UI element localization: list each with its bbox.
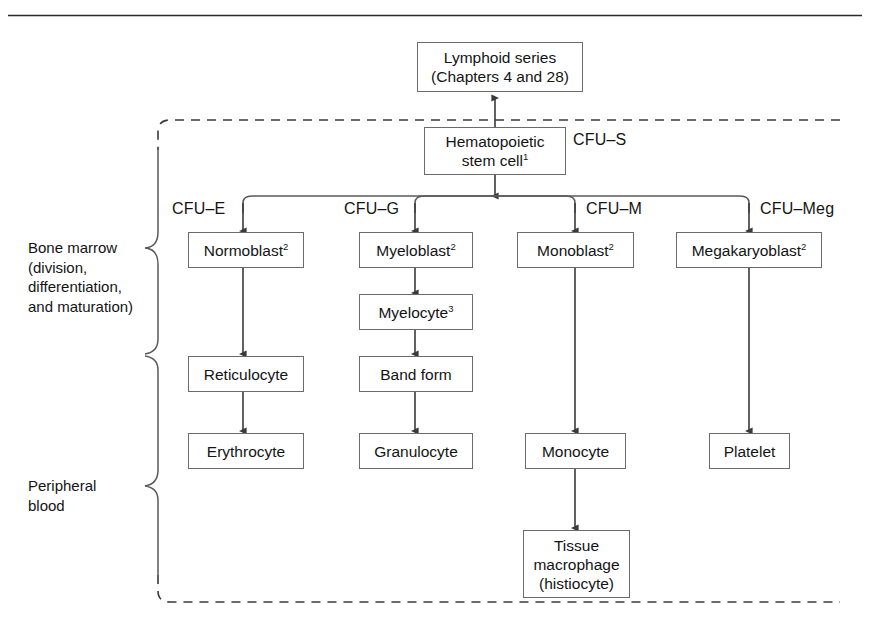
brace-bone-marrow	[145, 150, 158, 354]
label-cfu-s: CFU–S	[573, 131, 626, 149]
label-cfu-g: CFU–G	[344, 200, 399, 218]
node-monoblast[interactable]: Monoblast2	[517, 232, 634, 268]
brace-peripheral-blood	[145, 356, 158, 575]
node-erythrocyte[interactable]: Erythrocyte	[188, 433, 304, 469]
footnote-marker-3: 3	[448, 302, 453, 313]
node-tissue-macrophage-line1: Tissue	[554, 536, 599, 555]
branch-bus-cfu-g	[415, 196, 495, 213]
node-myeloblast[interactable]: Myeloblast2	[359, 232, 473, 268]
node-platelet[interactable]: Platelet	[709, 433, 790, 469]
node-granulocyte[interactable]: Granulocyte	[359, 433, 473, 469]
node-normoblast[interactable]: Normoblast2	[188, 232, 304, 268]
node-tissue-macrophage[interactable]: Tissue macrophage (histiocyte)	[523, 530, 630, 598]
node-myelocyte-label: Myelocyte3	[378, 303, 453, 322]
node-lymphoid-series-line1: Lymphoid series	[444, 48, 556, 67]
node-granulocyte-label: Granulocyte	[374, 442, 458, 461]
label-cfu-meg: CFU–Meg	[760, 200, 834, 218]
node-reticulocyte[interactable]: Reticulocyte	[188, 356, 304, 392]
node-myelocyte[interactable]: Myelocyte3	[359, 294, 473, 330]
node-platelet-label: Platelet	[724, 442, 776, 461]
node-lymphoid-series[interactable]: Lymphoid series (Chapters 4 and 28)	[417, 42, 583, 92]
footnote-marker-2: 2	[801, 240, 806, 251]
footnote-marker-2: 2	[283, 240, 288, 251]
label-cfu-e: CFU–E	[172, 200, 225, 218]
node-myeloblast-label: Myeloblast2	[376, 241, 455, 260]
dashed-line-bottom	[158, 575, 840, 602]
node-erythrocyte-label: Erythrocyte	[207, 442, 285, 461]
node-hematopoietic-stem-cell[interactable]: Hematopoietic stem cell1	[424, 127, 566, 175]
node-tissue-macrophage-line3: (histiocyte)	[539, 574, 614, 593]
node-band-form[interactable]: Band form	[359, 356, 473, 392]
branch-bus-cfu-m	[495, 196, 575, 213]
node-monoblast-label: Monoblast2	[537, 241, 614, 260]
node-hematopoietic-stem-cell-line2: stem cell1	[462, 151, 528, 170]
label-cfu-m: CFU–M	[586, 200, 642, 218]
node-band-form-label: Band form	[380, 365, 452, 384]
node-hematopoietic-stem-cell-line1: Hematopoietic	[445, 132, 544, 151]
node-normoblast-label: Normoblast2	[204, 241, 289, 260]
node-reticulocyte-label: Reticulocyte	[204, 365, 288, 384]
footnote-marker-2: 2	[450, 240, 455, 251]
node-lymphoid-series-line2: (Chapters 4 and 28)	[431, 67, 569, 86]
footnote-marker-2: 2	[609, 240, 614, 251]
footnote-marker-1: 1	[523, 151, 528, 162]
region-label-peripheral-blood: Peripheral blood	[28, 476, 140, 515]
node-megakaryoblast[interactable]: Megakaryoblast2	[676, 232, 822, 268]
region-label-bone-marrow: Bone marrow (division, differentiation, …	[28, 238, 140, 316]
node-megakaryoblast-label: Megakaryoblast2	[692, 241, 807, 260]
node-monocyte[interactable]: Monocyte	[525, 433, 626, 469]
figure-canvas: Lymphoid series (Chapters 4 and 28) Hema…	[0, 0, 870, 632]
node-tissue-macrophage-line2: macrophage	[533, 555, 619, 574]
node-monocyte-label: Monocyte	[542, 442, 609, 461]
